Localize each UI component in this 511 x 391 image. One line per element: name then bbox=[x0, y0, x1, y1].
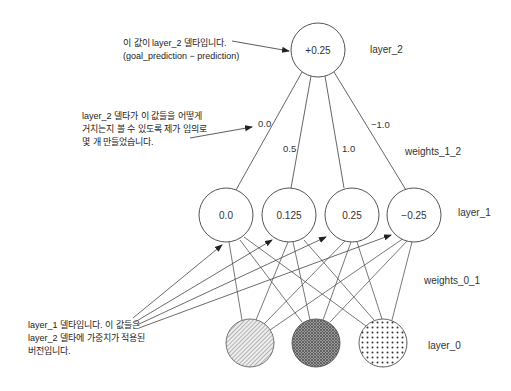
layer-1-node-value: 0.125 bbox=[276, 210, 301, 221]
layer-0-nodes bbox=[226, 319, 407, 367]
annotation-line: layer_1 델타입니다. 이 값들은 bbox=[28, 319, 140, 330]
layer-1-node-value: 0.0 bbox=[219, 210, 233, 221]
annotation-line: 이 값이 layer_2 델타입니다. bbox=[123, 37, 227, 48]
layer-1-node-value: 0.25 bbox=[342, 210, 362, 221]
layer-0-label: layer_0 bbox=[428, 340, 461, 351]
layer-2-node-value: +0.25 bbox=[305, 45, 331, 56]
arrow-icon bbox=[232, 41, 289, 51]
annotation-line: 거치는지 볼 수 있도록 제가 임의로 bbox=[82, 123, 207, 134]
layer-2-label: layer_2 bbox=[370, 44, 403, 55]
layer-0-node-crosshatched bbox=[292, 319, 340, 367]
layer-1-node-value: −0.25 bbox=[401, 210, 427, 221]
layer-1-nodes: 0.0 0.125 0.25 −0.25 bbox=[199, 188, 441, 242]
weight-value: 0.0 bbox=[258, 118, 271, 129]
annotation-layer-2-delta: 이 값이 layer_2 델타입니다. (goal_prediction − p… bbox=[123, 37, 289, 61]
annotation-weights-note: layer_2 델타가 이 값들을 어떻게 거치는지 볼 수 있도록 제가 임의… bbox=[82, 110, 252, 147]
weights-1-2-values: 0.0 0.5 1.0 −1.0 bbox=[258, 118, 390, 154]
weights-0-1-connections bbox=[229, 237, 412, 330]
arrow-icon bbox=[139, 235, 391, 328]
weights-1-2-label: weights_1_2 bbox=[404, 146, 462, 157]
layer-1-node: 0.125 bbox=[262, 188, 316, 242]
layer-1-label: layer_1 bbox=[458, 207, 491, 218]
layer-0-node-hatched bbox=[226, 319, 274, 367]
weight-value: −1.0 bbox=[371, 119, 390, 130]
annotation-line: layer_2 델타에 가중치가 적용된 bbox=[28, 332, 145, 343]
weights-1-2-connections bbox=[236, 72, 406, 190]
layer-0-node-dotted bbox=[359, 319, 407, 367]
weight-value: 0.5 bbox=[283, 143, 296, 154]
weight-value: 1.0 bbox=[342, 143, 355, 154]
arrow-icon bbox=[133, 245, 222, 318]
annotation-line: layer_2 델타가 이 값들을 어떻게 bbox=[82, 110, 202, 121]
layer-1-node: −0.25 bbox=[387, 188, 441, 242]
layer-2-node: +0.25 bbox=[291, 23, 345, 77]
layer-1-node: 0.0 bbox=[199, 188, 253, 242]
neural-network-diagram: +0.25 0.0 0.125 0.25 −0.25 0.0 0.5 1.0 −… bbox=[0, 0, 511, 391]
annotation-line: 버전입니다. bbox=[28, 345, 71, 356]
weights-0-1-label: weights_0_1 bbox=[423, 275, 481, 286]
layer-1-node: 0.25 bbox=[325, 188, 379, 242]
annotation-line: 몇 개 만들었습니다. bbox=[82, 136, 154, 147]
arrow-icon bbox=[137, 237, 326, 325]
arrow-icon bbox=[135, 240, 272, 322]
annotation-line: (goal_prediction − prediction) bbox=[123, 51, 239, 61]
